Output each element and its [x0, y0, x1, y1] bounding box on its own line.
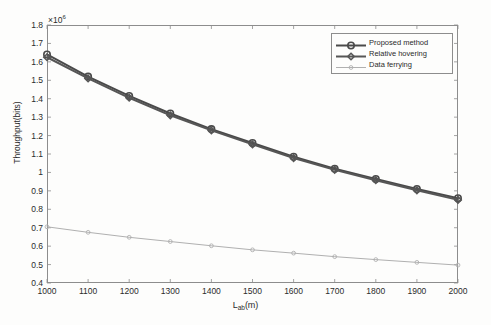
series-relative-hovering: [44, 54, 461, 203]
legend-label-data-ferrying: Data ferrying: [367, 61, 412, 69]
legend-box: Proposed method Relative hovering Data f…: [331, 33, 453, 74]
figure-canvas: ×106 Throughput(bits) 1.81.71.61.51.41.3…: [0, 0, 491, 325]
legend-item-relative-hovering[interactable]: Relative hovering: [335, 48, 448, 59]
legend-label-proposed-method: Proposed method: [367, 39, 428, 47]
legend-label-relative-hovering: Relative hovering: [367, 50, 427, 58]
legend-swatch-proposed-method: [335, 37, 367, 48]
legend-swatch-relative-hovering: [335, 48, 367, 59]
legend-item-data-ferrying[interactable]: Data ferrying: [335, 59, 448, 70]
data-series-layer: [44, 51, 461, 267]
series-data-ferrying: [45, 225, 460, 267]
legend-swatch-data-ferrying: [335, 59, 367, 70]
legend-line-sample: [335, 62, 367, 73]
legend-item-proposed-method[interactable]: Proposed method: [335, 37, 448, 48]
